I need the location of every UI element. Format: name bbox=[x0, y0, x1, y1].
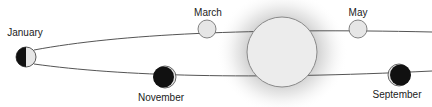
earth-november bbox=[153, 66, 176, 88]
earth-january bbox=[16, 47, 36, 67]
label-january: January bbox=[7, 28, 43, 38]
orbit-diagram: January March May November September bbox=[0, 0, 432, 107]
label-november: November bbox=[138, 93, 184, 103]
sun bbox=[247, 17, 317, 87]
earth-may bbox=[349, 20, 367, 38]
label-september: September bbox=[373, 90, 422, 100]
earth-september bbox=[388, 64, 411, 86]
label-march: March bbox=[194, 8, 222, 18]
earth-march bbox=[198, 20, 216, 38]
label-may: May bbox=[349, 8, 368, 18]
